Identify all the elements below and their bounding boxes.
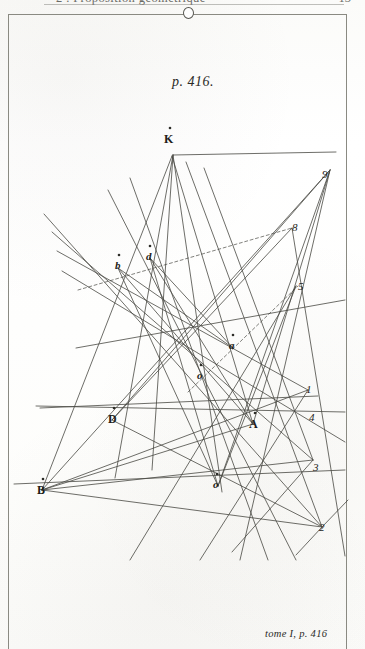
geometric-figure xyxy=(0,0,365,649)
construction-line-9 xyxy=(42,424,253,490)
construction-line-37 xyxy=(292,228,345,556)
construction-line-38 xyxy=(322,500,348,527)
construction-line-26 xyxy=(118,268,233,348)
construction-line-30 xyxy=(36,406,345,412)
node-dot-d xyxy=(149,245,152,248)
vertex-label-B: B xyxy=(37,483,45,498)
vertex-label-A: A xyxy=(249,417,258,432)
node-dot-o-mid xyxy=(200,364,203,367)
node-dot-o-low xyxy=(216,473,219,476)
construction-line-13 xyxy=(57,251,308,390)
vertex-label-K: K xyxy=(164,132,173,147)
node-dot-a xyxy=(232,334,235,337)
construction-line-4 xyxy=(42,156,172,490)
node-dot-B xyxy=(42,478,45,481)
plate-page: 2 . Proposition géométrique 13 KbdaoDABo… xyxy=(0,0,365,649)
vertex-label-d: d xyxy=(146,250,152,262)
node-dot-b xyxy=(118,254,121,257)
construction-line-5 xyxy=(42,170,330,490)
node-dot-D xyxy=(113,407,116,410)
vertex-label-o-mid: o xyxy=(197,369,203,381)
construction-line-21 xyxy=(172,156,253,424)
node-dot-A xyxy=(254,412,257,415)
vertex-label-b: b xyxy=(115,259,121,271)
construction-line-12 xyxy=(52,232,313,460)
solid-line-group xyxy=(14,152,348,560)
number-label-n5: 5 xyxy=(298,280,304,292)
vertex-label-a: a xyxy=(229,339,235,351)
construction-line-41 xyxy=(232,460,313,552)
construction-line-24 xyxy=(218,170,330,486)
construction-line-17 xyxy=(112,228,292,420)
number-label-n8: 8 xyxy=(292,221,298,233)
vertex-label-o-low: o xyxy=(213,478,219,490)
construction-line-8 xyxy=(42,490,322,527)
number-label-n2: 2 xyxy=(319,521,325,533)
construction-line-14 xyxy=(62,271,345,442)
plate-top-caption: p. 416. xyxy=(172,74,214,90)
construction-line-27 xyxy=(150,258,233,348)
construction-line-15 xyxy=(112,170,330,420)
construction-line-0 xyxy=(115,155,173,478)
number-label-n3: 3 xyxy=(313,461,319,473)
construction-line-10 xyxy=(14,470,345,484)
node-dot-K xyxy=(169,127,172,130)
construction-line-3 xyxy=(173,152,336,155)
number-label-n9: 9 xyxy=(322,168,328,180)
dashed-line-group xyxy=(78,228,298,392)
vertex-label-D: D xyxy=(108,412,117,427)
number-label-n4: 4 xyxy=(309,411,315,423)
number-label-n1: 1 xyxy=(306,383,312,395)
plate-bottom-caption: tome I, p. 416 xyxy=(265,628,327,639)
construction-line-34 xyxy=(186,162,322,527)
construction-line-29 xyxy=(240,170,330,560)
